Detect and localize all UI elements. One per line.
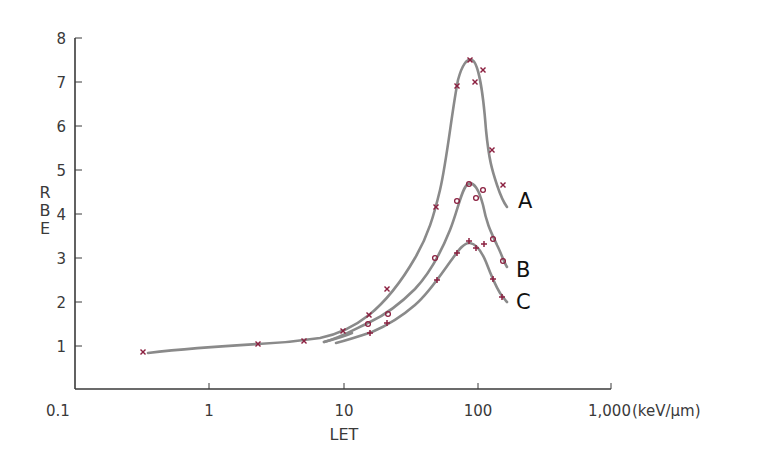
svg-text:E: E — [40, 219, 50, 238]
svg-text:R: R — [39, 183, 50, 202]
y-tick-5: 5 — [56, 162, 66, 180]
curve-label-b: B — [516, 258, 530, 282]
x-tick-10: 10 — [334, 402, 353, 420]
curve-a — [148, 60, 507, 353]
y-tick-2: 2 — [56, 294, 66, 312]
x-axis-title: LET — [330, 425, 359, 444]
x-tick-labels: 0.1 1 10 100 1,000 (keV/μm) — [46, 402, 700, 420]
x-tick-1: 1 — [204, 402, 214, 420]
y-tick-4: 4 — [56, 206, 66, 224]
x-tick-100: 100 — [464, 402, 493, 420]
x-ticks — [209, 383, 611, 389]
svg-text:B: B — [40, 201, 51, 220]
x-unit-label: (keV/μm) — [632, 402, 701, 420]
curve-label-c: C — [516, 290, 531, 314]
curve-b — [324, 183, 507, 342]
y-tick-8: 8 — [56, 30, 66, 48]
curve-c — [336, 243, 507, 343]
x-tick-1000: 1,000 — [588, 402, 631, 420]
y-tick-3: 3 — [56, 250, 66, 268]
y-tick-7: 7 — [56, 74, 66, 92]
y-ticks — [75, 38, 82, 346]
x-tick-0.1: 0.1 — [46, 402, 70, 420]
y-tick-labels: 8 7 6 5 4 3 2 1 — [56, 30, 66, 356]
y-tick-6: 6 — [56, 118, 66, 136]
series-a-markers — [141, 58, 506, 355]
y-axis-title: R B E — [39, 183, 50, 238]
series-c-markers — [367, 238, 505, 336]
rbe-let-chart: 8 7 6 5 4 3 2 1 R B E 0.1 1 10 100 1,000… — [0, 0, 765, 461]
curve-label-a: A — [518, 189, 533, 213]
y-tick-1: 1 — [56, 338, 66, 356]
